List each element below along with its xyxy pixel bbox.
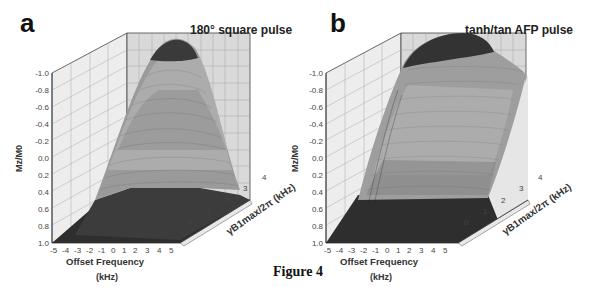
y-tick: -0.2 [301,137,323,146]
y-tick: 0.4 [301,188,323,197]
y-tick: 0.8 [301,222,323,231]
y-tick: 0.4 [27,188,49,197]
z-tick: 2 [501,196,505,205]
panel-a: a 180° square pulse -1.0 -0.8 -0.6 -0.4 … [0,0,298,260]
z-tick: 3 [243,184,247,193]
y-tick: 0.0 [27,154,49,163]
y-tick: 0.2 [301,171,323,180]
figure-caption: Figure 4 [0,264,596,280]
y-tick: 0.6 [301,205,323,214]
y-tick: -0.2 [27,137,49,146]
y-tick: 0.8 [27,222,49,231]
x-tick: -4 [336,246,343,255]
x-tick: -2 [86,246,93,255]
z-tick: 1 [207,207,211,216]
y-axis-title: Mz/M0 [14,145,24,172]
y-tick: -1.0 [301,69,323,78]
y-tick: 1.0 [27,239,49,248]
x-tick: 2 [133,246,137,255]
x-tick: 0 [385,246,389,255]
y-tick: -1.0 [27,69,49,78]
x-tick: 2 [407,246,411,255]
y-tick: -0.8 [27,86,49,95]
z-tick: 4 [538,173,542,182]
panel-title: 180° square pulse [190,23,292,37]
y-axis-title: Mz/M0 [290,145,300,172]
x-tick: 5 [169,246,173,255]
panel-letter: a [20,8,34,39]
surface-plot-a [0,0,298,260]
panel-b: b tanh/tan AFP pulse -1.0 -0.8 -0.6 -0.4… [298,0,596,260]
z-tick: 0 [464,218,468,227]
y-tick: -0.8 [301,86,323,95]
x-tick: 4 [157,246,161,255]
x-tick: 3 [419,246,423,255]
y-tick: -0.6 [301,103,323,112]
x-tick: -1 [98,246,105,255]
y-tick: 0.6 [27,205,49,214]
x-tick: 1 [122,246,126,255]
x-tick: 5 [443,246,447,255]
x-tick: 3 [145,246,149,255]
x-tick: 1 [396,246,400,255]
panel-title: tanh/tan AFP pulse [465,23,573,37]
x-tick: -4 [62,246,69,255]
panel-letter: b [330,8,346,39]
y-tick: -0.6 [27,103,49,112]
x-tick: -1 [372,246,379,255]
surface-plot-b [298,0,596,260]
z-tick: 3 [519,184,523,193]
x-tick: -5 [50,246,57,255]
x-tick: -5 [324,246,331,255]
z-tick: 4 [262,173,266,182]
y-tick: 0.0 [301,154,323,163]
x-tick: -3 [348,246,355,255]
y-tick: 1.0 [301,239,323,248]
y-tick: 0.2 [27,171,49,180]
y-tick: -0.4 [301,120,323,129]
y-tick: -0.4 [27,120,49,129]
z-tick: 0 [188,218,192,227]
z-tick: 2 [225,196,229,205]
z-tick: 1 [483,207,487,216]
x-tick: 0 [111,246,115,255]
x-tick: 4 [431,246,435,255]
x-tick: -2 [360,246,367,255]
x-tick: -3 [74,246,81,255]
